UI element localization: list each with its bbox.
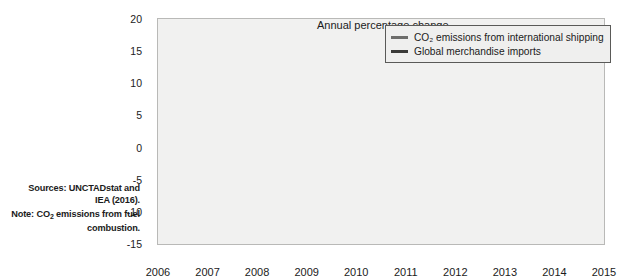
sources-line-2: IEA (2016). — [0, 194, 140, 206]
legend-label: Global merchandise imports — [414, 46, 541, 57]
y-tick-label: 15 — [116, 45, 142, 57]
note-line-2: combustion. — [0, 222, 140, 234]
legend-item-2: Global merchandise imports — [391, 44, 604, 58]
x-tick-label: 2012 — [433, 266, 477, 278]
x-tick-label: 2014 — [532, 266, 576, 278]
legend-label: CO₂ emissions from international shippin… — [414, 32, 604, 43]
x-tick-label: 2006 — [136, 266, 180, 278]
y-tick-label: 5 — [116, 109, 142, 121]
note-subscript: 2 — [50, 213, 54, 220]
legend-item-1: CO₂ emissions from international shippin… — [391, 30, 604, 44]
line-chart: Annual percentage change 20151050-5-10-1… — [157, 18, 605, 245]
x-tick-label: 2013 — [483, 266, 527, 278]
legend-swatch-icon — [391, 50, 408, 53]
y-tick-label: -10 — [116, 206, 142, 218]
x-tick-label: 2007 — [186, 266, 230, 278]
y-tick-label: 20 — [116, 13, 142, 25]
x-tick-label: 2008 — [235, 266, 279, 278]
y-tick-label: 0 — [116, 142, 142, 154]
y-tick-label: -5 — [116, 174, 142, 186]
x-tick-label: 2009 — [285, 266, 329, 278]
x-tick-label: 2015 — [582, 266, 621, 278]
chart-legend: CO₂ emissions from international shippin… — [385, 25, 611, 63]
x-tick-label: 2011 — [384, 266, 428, 278]
y-tick-label: -15 — [116, 238, 142, 250]
note-prefix: Note: CO — [11, 209, 50, 219]
y-tick-label: 10 — [116, 77, 142, 89]
x-tick-label: 2010 — [334, 266, 378, 278]
legend-swatch-icon — [391, 36, 408, 39]
